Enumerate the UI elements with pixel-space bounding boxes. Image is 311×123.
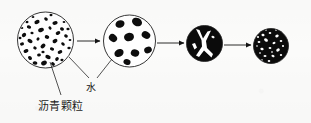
stage-1-dispersed-particles — [18, 12, 74, 68]
leader-line-water-from-stage1 — [69, 57, 89, 78]
stage-4-cured-film — [254, 29, 289, 64]
leader-line-water-from-stage2 — [97, 59, 112, 78]
stage-3-continuous-film — [187, 26, 223, 62]
label-asphalt-particles: 沥青颗粒 — [38, 97, 84, 113]
stage-2-coalescing-droplets — [104, 15, 156, 67]
leader-line-asphalt-particles — [50, 62, 61, 95]
label-water: 水 — [86, 79, 96, 94]
